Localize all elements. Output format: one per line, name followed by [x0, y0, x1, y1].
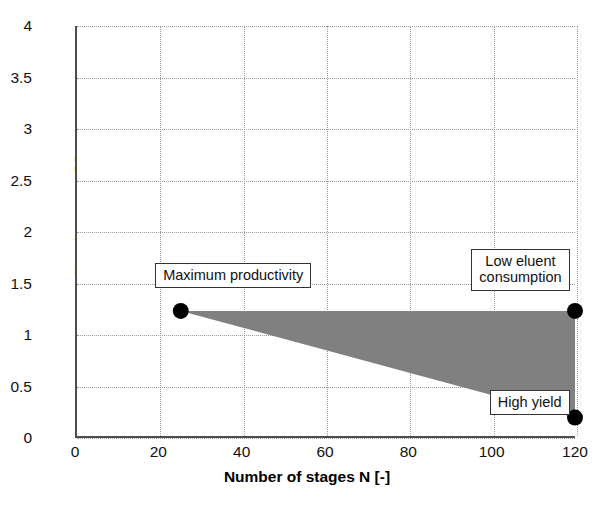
- plot-area: [75, 26, 575, 438]
- marker-layer: [77, 26, 575, 436]
- y-tick-label: 4: [23, 17, 32, 35]
- figure-caption-partial: [0, 495, 614, 517]
- chart-figure: 00.511.522.533.54 020406080100120 Loadin…: [0, 0, 614, 517]
- x-tick-label: 60: [316, 443, 333, 461]
- y-tick-label: 0.5: [10, 378, 32, 396]
- y-tick-label: 2.5: [10, 172, 32, 190]
- y-tick-label: 1: [23, 326, 32, 344]
- x-tick-label: 80: [400, 443, 417, 461]
- x-tick-label: 120: [562, 443, 588, 461]
- callout-high-yield: High yield: [490, 390, 570, 415]
- callout-maximum-productivity: Maximum productivity: [155, 263, 311, 288]
- x-tick-label: 40: [233, 443, 250, 461]
- y-tick-label: 3: [23, 120, 32, 138]
- x-axis-title: Number of stages N [-]: [0, 468, 614, 486]
- callout-low-eluent-consumption: Low eluent consumption: [471, 249, 569, 290]
- y-tick-label: 2: [23, 223, 32, 241]
- y-tick-label: 0: [23, 429, 32, 447]
- y-tick-label: 3.5: [10, 69, 32, 87]
- data-point-marker: [173, 303, 189, 319]
- gridline-vertical: [577, 26, 578, 436]
- x-tick-label: 100: [479, 443, 505, 461]
- gridline-horizontal: [77, 438, 575, 439]
- x-tick-label: 20: [150, 443, 167, 461]
- data-point-marker: [567, 303, 583, 319]
- x-tick-label: 0: [71, 443, 80, 461]
- y-tick-label: 1.5: [10, 275, 32, 293]
